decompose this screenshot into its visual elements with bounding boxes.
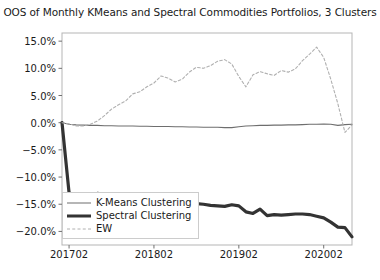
legend-label-kmeans: K-Means Clustering <box>96 197 192 208</box>
legend-line-ew-icon <box>67 223 91 234</box>
legend-line-kmeans-icon <box>67 197 91 208</box>
series-line-ew <box>62 47 352 132</box>
series-line-k-means-clustering <box>62 123 352 128</box>
legend-line-spectral-icon <box>67 210 91 221</box>
chart-figure: OOS of Monthly KMeans and Spectral Commo… <box>0 0 380 280</box>
chart-legend: K-Means Clustering Spectral Clustering E… <box>62 192 199 239</box>
legend-item-kmeans: K-Means Clustering <box>67 196 192 209</box>
legend-label-spectral: Spectral Clustering <box>96 210 191 221</box>
legend-item-spectral: Spectral Clustering <box>67 209 192 222</box>
legend-label-ew: EW <box>96 223 112 234</box>
legend-item-ew: EW <box>67 222 192 235</box>
